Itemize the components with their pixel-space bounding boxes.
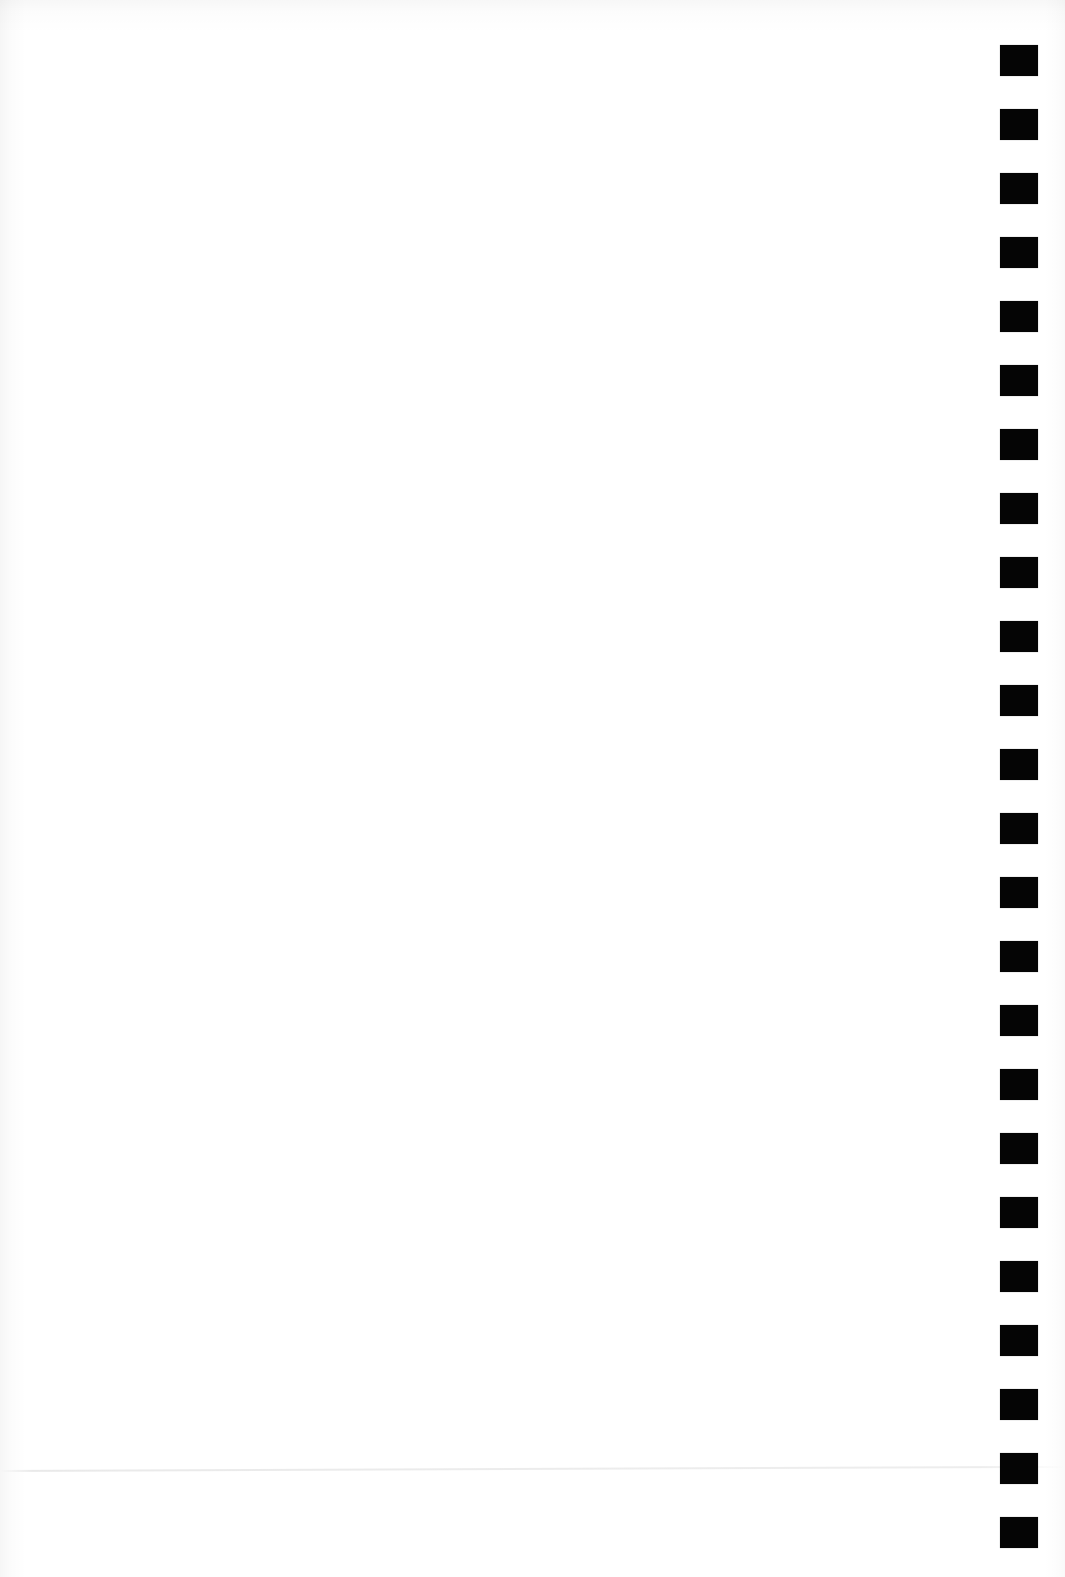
paper-surface	[0, 0, 1065, 1577]
scanned-page: Scanned Blank Page	[0, 0, 1065, 1577]
